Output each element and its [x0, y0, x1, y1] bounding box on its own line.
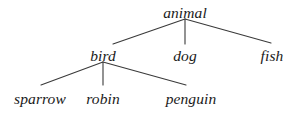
node-animal: animal: [163, 5, 207, 21]
edge-bird-sparrow: [41, 62, 103, 85]
node-penguin: penguin: [166, 91, 217, 107]
edge-bird-penguin: [103, 62, 186, 85]
edge-animal-fish: [185, 19, 271, 43]
edge-animal-bird: [113, 19, 185, 44]
node-sparrow: sparrow: [14, 91, 66, 107]
node-bird: bird: [90, 48, 116, 64]
node-fish: fish: [261, 48, 284, 64]
node-robin: robin: [86, 91, 120, 107]
edge-group: [41, 19, 271, 85]
node-dog: dog: [173, 48, 197, 64]
taxonomy-tree-diagram: animal bird dog fish sparrow robin pengu…: [0, 0, 293, 115]
